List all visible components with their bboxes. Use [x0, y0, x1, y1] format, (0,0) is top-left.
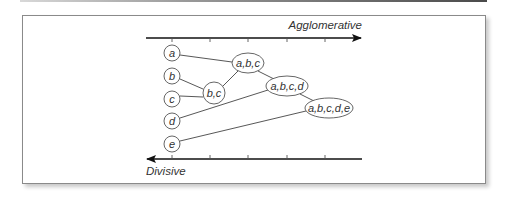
svg-text:a,b,c: a,b,c: [236, 57, 260, 69]
cluster-node-abcde: a,b,c,d,e: [305, 98, 353, 118]
svg-text:c: c: [169, 93, 175, 105]
leaf-node-d: d: [164, 113, 180, 129]
svg-text:b: b: [169, 70, 175, 82]
agglomerative-label: Agglomerative: [287, 19, 362, 31]
edge-b-bc: [180, 79, 203, 89]
svg-text:a: a: [169, 47, 175, 59]
divisive-axis: Divisive: [146, 155, 362, 177]
edge-a-abc: [180, 55, 232, 62]
edge-e-abcde: [180, 111, 306, 141]
edge-abcd-abcde: [300, 94, 314, 101]
edge-bc-abc: [223, 71, 238, 86]
leaf-nodes: a b c d e: [164, 45, 180, 152]
edge-abc-abcd: [258, 71, 274, 79]
hierarchical-clustering-diagram: Agglomerative Divisive a b c: [0, 0, 505, 197]
cluster-node-abcd: a,b,c,d: [266, 76, 308, 96]
cluster-node-bc: b,c: [203, 82, 225, 104]
leaf-node-b: b: [164, 68, 180, 84]
leaf-node-c: c: [164, 91, 180, 107]
edge-c-bc: [180, 96, 203, 97]
svg-text:b,c: b,c: [207, 87, 222, 99]
svg-text:e: e: [169, 138, 175, 150]
leaf-node-a: a: [164, 45, 180, 61]
svg-text:a,b,c,d,e: a,b,c,d,e: [308, 102, 350, 114]
leaf-node-e: e: [164, 136, 180, 152]
agglomerative-axis: Agglomerative: [146, 19, 362, 42]
cluster-node-abc: a,b,c: [232, 53, 264, 73]
svg-text:a,b,c,d: a,b,c,d: [270, 80, 304, 92]
cluster-nodes: b,c a,b,c a,b,c,d a,b,c,d,e: [203, 53, 353, 118]
divisive-label: Divisive: [146, 165, 186, 177]
svg-text:d: d: [169, 115, 176, 127]
